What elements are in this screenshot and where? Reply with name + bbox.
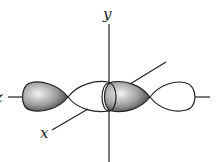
right-orbital-shaded-lobe <box>105 82 151 112</box>
y-axis-label: y <box>102 5 112 23</box>
p-orbital-overlap-diagram: y x z <box>0 0 218 162</box>
x-axis-label: x <box>40 124 49 142</box>
z-axis-label: z <box>0 88 3 106</box>
left-orbital-shaded-lobe <box>23 82 69 111</box>
right-orbital-unshaded-lobe <box>150 82 195 111</box>
